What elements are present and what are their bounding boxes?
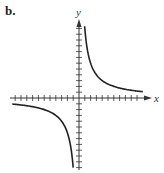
curve-branch-quadrant-1 (85, 26, 143, 91)
y-axis-arrow-icon (77, 19, 82, 27)
curve-branch-quadrant-3 (12, 104, 73, 168)
y-axis-label: y (75, 6, 81, 18)
x-axis-arrow-icon (144, 96, 152, 101)
x-axis-label: x (153, 92, 159, 104)
hyperbola-plot: xy (0, 0, 164, 173)
